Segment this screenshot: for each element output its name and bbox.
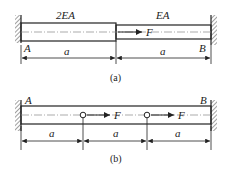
force-label-1: F: [113, 109, 121, 121]
caption-b: (b): [110, 153, 122, 165]
right-fixed-support: [211, 15, 217, 45]
point-b-label: B: [199, 42, 206, 54]
segment-left-label: 2EA: [56, 9, 75, 21]
dim-label-1: a: [49, 127, 55, 139]
bar-diagram: F 2EA EA A B a a (a) F: [0, 0, 230, 180]
dimension-lines: [21, 41, 211, 64]
hinge-2: [144, 112, 150, 118]
left-fixed-support: [15, 15, 21, 43]
figure-a: F 2EA EA A B a a (a): [15, 9, 217, 84]
segment-right-label: EA: [155, 9, 170, 21]
point-a-label: A: [23, 42, 31, 54]
force-label: F: [145, 26, 153, 38]
hinge-1: [80, 112, 86, 118]
caption-a: (a): [110, 72, 121, 84]
point-b-label: B: [200, 94, 207, 106]
dim-label-2: a: [113, 127, 119, 139]
force-label-2: F: [177, 109, 185, 121]
dim-left-label: a: [64, 45, 70, 57]
left-fixed-support: [15, 100, 21, 131]
right-fixed-support: [211, 100, 217, 131]
dim-label-3: a: [175, 127, 181, 139]
point-a-label: A: [24, 94, 32, 106]
figure-b: F F A B a a a (b): [15, 94, 217, 165]
dim-right-label: a: [160, 45, 166, 57]
